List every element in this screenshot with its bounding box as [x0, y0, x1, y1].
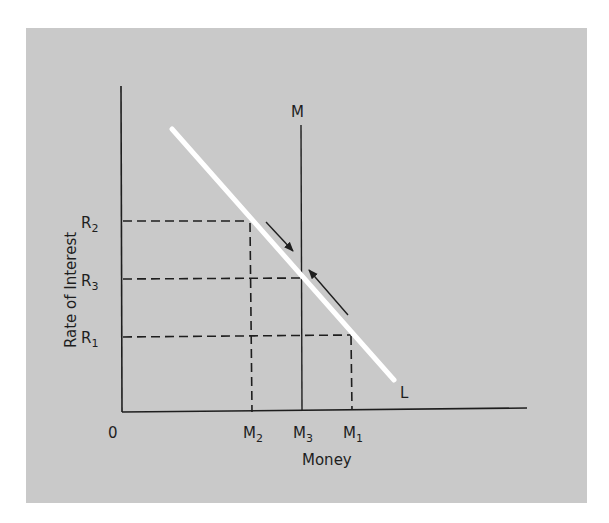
- x-tick-m2: M2: [243, 424, 263, 445]
- r1-guide: [123, 335, 351, 337]
- y-tick-sub: 2: [91, 222, 98, 235]
- y-tick-r2: R2: [81, 214, 98, 235]
- y-tick-r1: R1: [81, 329, 98, 350]
- y-tick-main: R: [81, 329, 91, 347]
- y-tick-sub: 3: [91, 280, 98, 293]
- y-axis: [121, 86, 122, 412]
- x-tick-main: M: [293, 424, 306, 442]
- y-tick-sub: 1: [91, 337, 98, 350]
- liquidity-diagram: M L R2 R3 R1 0 M2 M3 M1 Money Rate of In…: [0, 0, 609, 523]
- r3-guide: [123, 278, 300, 279]
- y-tick-main: R: [81, 214, 91, 232]
- liquidity-label: L: [400, 384, 409, 402]
- y-tick-main: R: [81, 272, 91, 290]
- x-tick-sub: 2: [256, 432, 263, 445]
- x-tick-sub: 1: [356, 432, 363, 445]
- y-tick-r3: R3: [81, 272, 98, 293]
- dashed-guides: [123, 221, 352, 412]
- x-tick-main: M: [243, 424, 256, 442]
- x-tick-main: M: [343, 424, 356, 442]
- money-supply-label: M: [291, 103, 304, 121]
- x-axis: [122, 408, 527, 412]
- x-tick-sub: 3: [306, 432, 313, 445]
- y-axis-title: Rate of Interest: [62, 232, 80, 348]
- x-tick-m3: M3: [293, 424, 313, 445]
- x-axis-title: Money: [302, 451, 352, 469]
- x-tick-m1: M1: [343, 424, 363, 445]
- m2-guide: [250, 223, 252, 412]
- m1-guide: [351, 336, 352, 410]
- liquidity-curve: [172, 129, 394, 380]
- origin-label: 0: [108, 424, 118, 442]
- money-supply-line: [301, 125, 302, 411]
